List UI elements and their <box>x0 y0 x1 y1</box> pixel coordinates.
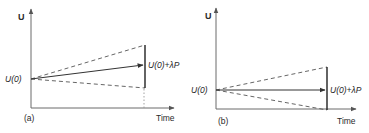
upper-envelope-a <box>31 45 145 79</box>
end-label-a: U(0)+λP <box>148 60 180 70</box>
lower-envelope-a <box>31 79 145 88</box>
upper-envelope-b <box>216 67 327 90</box>
mean-arrow-a <box>31 65 143 79</box>
x-axis-label-a: Time <box>156 113 175 123</box>
end-label-b: U(0)+λP <box>330 85 362 95</box>
x-axis-label-b: Time <box>337 116 356 126</box>
y-axis-label-b: U <box>205 11 212 21</box>
caption-a: (a) <box>24 113 35 123</box>
panel-b: U U(0) U(0)+λP Time (b) <box>191 8 362 126</box>
start-label-a: U(0) <box>5 74 22 84</box>
panel-a: U U(0) U(0)+λP Time (a) <box>5 9 180 123</box>
start-label-b: U(0) <box>191 85 208 95</box>
caption-b: (b) <box>218 116 229 126</box>
diagram-canvas: U U(0) U(0)+λP Time (a) U U(0) U(0)+λP T… <box>0 0 369 133</box>
lower-envelope-b <box>216 90 327 110</box>
y-axis-label-a: U <box>18 12 25 22</box>
